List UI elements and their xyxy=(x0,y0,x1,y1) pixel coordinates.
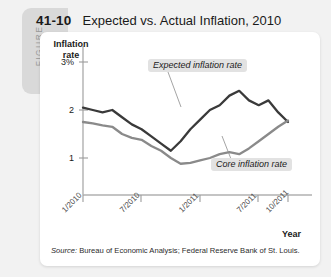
figure-header: 41-10 Expected vs. Actual Inflation, 201… xyxy=(36,10,281,30)
page-title: Expected vs. Actual Inflation, 2010 xyxy=(83,13,282,28)
annotation-core-inflation: Core inflation rate xyxy=(211,158,292,171)
annotation-expected-inflation: Expected inflation rate xyxy=(148,59,247,72)
source-prefix: Source: xyxy=(51,246,77,255)
y-tick-label-2: 2 xyxy=(48,105,74,115)
figure-number: 41-10 xyxy=(36,13,72,28)
leader-line-expected xyxy=(168,72,181,107)
x-axis-title: Year xyxy=(282,229,301,240)
source-note: Source: Bureau of Economic Analysis; Fed… xyxy=(51,246,300,255)
chart-card: Inflationrate 3% 2 1 1/2010 7/2010 1/201… xyxy=(40,32,320,266)
leader-line-core xyxy=(222,136,231,159)
source-text: Bureau of Economic Analysis; Federal Res… xyxy=(77,246,299,255)
y-tick-label-3: 3% xyxy=(48,57,74,67)
y-tick-label-1: 1 xyxy=(48,153,74,163)
